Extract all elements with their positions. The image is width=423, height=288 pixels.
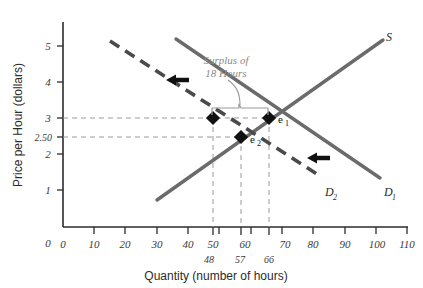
curve-label-D2-subscript: 2 xyxy=(333,193,337,202)
chart-canvas: 0 1 2 2.50 3 4 5 0 10 20 30 40 50 xyxy=(0,0,423,288)
point-marker-surplus-left xyxy=(206,111,220,125)
x-tick-label-30: 30 xyxy=(151,238,164,250)
y-tick-label-1: 1 xyxy=(45,184,51,196)
y-tick-label-5: 5 xyxy=(45,40,51,52)
x-tick-label-80: 80 xyxy=(308,238,320,250)
x-special-tick-label-66: 66 xyxy=(264,254,274,265)
x-tick-label-40: 40 xyxy=(183,238,195,250)
y-tick-label-3: 3 xyxy=(44,112,51,124)
point-label-e1-subscript: 1 xyxy=(285,119,289,128)
point-marker-e2 xyxy=(234,130,248,144)
y-tick-label-2: 2 xyxy=(45,148,51,160)
axes xyxy=(63,22,408,227)
y-tick-label-0: 0 xyxy=(45,237,51,249)
x-tick-label-100: 100 xyxy=(369,238,386,250)
surplus-annotation-line1: Surplus of xyxy=(204,54,251,66)
demand-shift-arrow-lower xyxy=(307,153,330,164)
y-tick-label-4: 4 xyxy=(45,76,51,88)
x-axis-ticks: 0 10 20 30 40 50 60 70 80 90 100 110 48 … xyxy=(60,227,415,265)
x-special-tick-label-48: 48 xyxy=(204,254,214,265)
x-tick-label-110: 110 xyxy=(399,238,415,250)
surplus-annotation-line2: 18 Hours xyxy=(205,67,246,79)
y-axis-ticks: 0 1 2 2.50 3 4 5 xyxy=(35,40,64,249)
x-tick-label-60: 60 xyxy=(240,238,252,250)
y-axis-title: Price per Hour (dollars) xyxy=(11,63,25,187)
x-tick-label-70: 70 xyxy=(280,238,292,250)
surplus-leader-line xyxy=(228,80,240,105)
point-label-e1: e xyxy=(278,113,283,125)
x-tick-label-20: 20 xyxy=(120,238,132,250)
curve-label-D1-subscript: 1 xyxy=(392,193,396,202)
x-tick-label-50: 50 xyxy=(208,238,220,250)
x-tick-label-10: 10 xyxy=(89,238,101,250)
point-label-e2: e xyxy=(250,133,255,145)
x-axis-title: Quantity (number of hours) xyxy=(144,269,287,283)
y-tick-label-2_50: 2.50 xyxy=(35,132,53,143)
x-tick-label-0: 0 xyxy=(60,238,66,250)
curve-label-S: S xyxy=(386,30,392,44)
x-tick-label-90: 90 xyxy=(340,238,352,250)
surplus-annotation: Surplus of 18 Hours xyxy=(204,54,268,115)
supply-demand-chart: 0 1 2 2.50 3 4 5 0 10 20 30 40 50 xyxy=(0,0,423,288)
point-label-e2-subscript: 2 xyxy=(257,139,261,148)
x-special-tick-label-57: 57 xyxy=(235,254,246,265)
